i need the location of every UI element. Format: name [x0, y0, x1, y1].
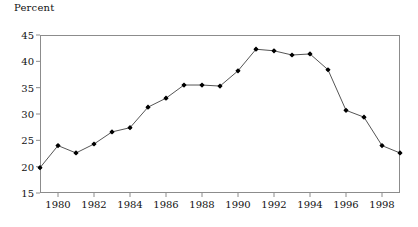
x-axis-tick-label: 1986 — [146, 199, 186, 210]
x-axis-tick-label: 1994 — [290, 199, 330, 210]
y-axis-title: Percent — [14, 2, 54, 13]
x-axis-tick-label: 1982 — [74, 199, 114, 210]
y-axis-tick-label: 30 — [10, 109, 34, 120]
x-axis-tick-label: 1984 — [110, 199, 150, 210]
y-axis-tick-label: 40 — [10, 56, 34, 67]
x-axis-tick-label: 1990 — [218, 199, 258, 210]
y-axis-tick-label: 45 — [10, 30, 34, 41]
plot-area-frame — [40, 35, 400, 193]
y-axis-tick-label: 25 — [10, 135, 34, 146]
y-axis-tick-label: 15 — [10, 188, 34, 199]
x-axis-tick-label: 1980 — [38, 199, 78, 210]
y-axis-tick-label: 20 — [10, 161, 34, 172]
x-axis-tick-label: 1988 — [182, 199, 222, 210]
x-axis-tick-label: 1992 — [254, 199, 294, 210]
x-axis-tick-label: 1998 — [362, 199, 402, 210]
chart-container: Percent 15202530354045 19801982198419861… — [0, 0, 418, 227]
x-axis-tick-label: 1996 — [326, 199, 366, 210]
y-axis-tick-label: 35 — [10, 82, 34, 93]
